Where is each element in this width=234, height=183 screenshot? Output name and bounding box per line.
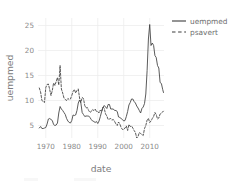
chart-figure: 510152025 19701980199020002010 date uemp… [0,0,234,183]
y-tick-label: 25 [25,21,34,30]
legend-label-uempmed: uempmed [190,17,228,26]
y-tick-label: 5 [29,121,34,130]
x-tick-label: 2010 [141,142,160,151]
y-axis-title: uempmed [4,55,15,102]
x-tick-label: 1970 [37,142,56,151]
y-tick-label: 15 [25,71,34,80]
legend-label-psavert: psavert [190,28,218,37]
x-tick-label: 1990 [89,142,108,151]
chart-svg: 510152025 19701980199020002010 date uemp… [0,0,234,183]
x-tick-label: 2000 [115,142,134,151]
x-tick-label: 1980 [63,142,82,151]
plot-panel-background [38,18,164,138]
x-axis-title: date [91,163,112,174]
y-tick-label: 10 [25,96,35,105]
y-tick-label: 20 [25,46,35,55]
